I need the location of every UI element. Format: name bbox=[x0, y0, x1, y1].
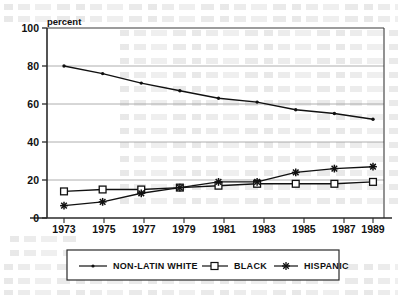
legend: NON-LATIN WHITE BLACK HISPANIC bbox=[67, 250, 349, 280]
data-point[interactable] bbox=[60, 202, 68, 210]
x-tick-label-1975: 1975 bbox=[92, 223, 116, 235]
data-point[interactable] bbox=[370, 179, 377, 186]
y-tick-label-40: 40 bbox=[27, 136, 39, 148]
dot-marker-icon bbox=[333, 112, 336, 115]
data-point[interactable] bbox=[331, 180, 338, 187]
data-point[interactable] bbox=[255, 100, 258, 103]
dot-marker-icon bbox=[294, 108, 297, 111]
x-tick-label-1987: 1987 bbox=[332, 223, 356, 235]
x-tick-label-1973: 1973 bbox=[52, 223, 76, 235]
square-marker-icon bbox=[61, 188, 68, 195]
dot-marker-icon bbox=[255, 100, 258, 103]
square-marker-icon bbox=[211, 263, 218, 270]
gridlines bbox=[47, 66, 384, 180]
data-point[interactable] bbox=[62, 64, 65, 67]
asterisk-marker-icon bbox=[282, 262, 290, 270]
data-point[interactable] bbox=[140, 81, 143, 84]
x-tick-label-1977: 1977 bbox=[132, 223, 156, 235]
y-tick-label-60: 60 bbox=[27, 98, 39, 110]
data-point[interactable] bbox=[253, 178, 261, 186]
x-tick-label-1989: 1989 bbox=[361, 223, 385, 235]
data-point[interactable] bbox=[369, 163, 377, 171]
data-point[interactable] bbox=[99, 198, 107, 206]
square-marker-icon bbox=[99, 186, 106, 193]
data-point[interactable] bbox=[178, 89, 181, 92]
square-marker-icon bbox=[331, 180, 338, 187]
dot-marker-icon bbox=[140, 81, 143, 84]
data-point[interactable] bbox=[99, 186, 106, 193]
data-point[interactable] bbox=[137, 189, 145, 197]
y-tick-label-80: 80 bbox=[27, 60, 39, 72]
dot-marker-icon bbox=[101, 72, 104, 75]
x-tick-label-1985: 1985 bbox=[292, 223, 316, 235]
legend-box bbox=[67, 250, 339, 280]
y-tick-label-20: 20 bbox=[27, 174, 39, 186]
dot-marker-icon bbox=[371, 118, 374, 121]
dot-marker-icon bbox=[62, 64, 65, 67]
data-point[interactable] bbox=[176, 184, 184, 192]
plot-frame bbox=[30, 28, 392, 218]
dot-marker-icon bbox=[217, 97, 220, 100]
data-point[interactable] bbox=[371, 118, 374, 121]
legend-label-black: BLACK bbox=[234, 261, 267, 271]
line-chart-figure: percent 100 80 60 4 bbox=[0, 0, 402, 295]
x-tick-label-1979: 1979 bbox=[172, 223, 196, 235]
legend-label-hispanic: HISPANIC bbox=[304, 261, 349, 271]
data-point[interactable] bbox=[215, 178, 223, 186]
y-tick-label-100: 100 bbox=[21, 22, 39, 34]
chart-canvas: percent 100 80 60 4 bbox=[0, 0, 402, 295]
y-tick-label-0: 0 bbox=[33, 212, 39, 224]
x-tick-label-1983: 1983 bbox=[252, 223, 276, 235]
dot-marker-icon bbox=[178, 89, 181, 92]
data-point[interactable] bbox=[294, 108, 297, 111]
square-marker-icon bbox=[292, 180, 299, 187]
legend-item-black[interactable]: BLACK bbox=[202, 261, 267, 271]
data-point[interactable] bbox=[292, 180, 299, 187]
square-marker-icon bbox=[370, 179, 377, 186]
series-non-latin-white bbox=[62, 64, 374, 121]
data-point[interactable] bbox=[61, 188, 68, 195]
x-tick-label-1981: 1981 bbox=[212, 223, 236, 235]
dot-icon bbox=[91, 264, 94, 267]
series-line bbox=[64, 66, 373, 119]
data-point[interactable] bbox=[330, 165, 338, 173]
y-tick-labels: 100 80 60 40 20 0 bbox=[21, 22, 39, 224]
legend-label-non-latin-white: NON-LATIN WHITE bbox=[113, 261, 198, 271]
data-series-layer bbox=[60, 64, 377, 209]
x-tick-labels: 1973 1975 1977 1979 1981 1983 1985 1987 … bbox=[52, 223, 385, 235]
y-axis-caption: percent bbox=[47, 16, 82, 27]
data-point[interactable] bbox=[292, 169, 300, 177]
data-point[interactable] bbox=[217, 97, 220, 100]
data-point[interactable] bbox=[101, 72, 104, 75]
data-point[interactable] bbox=[333, 112, 336, 115]
